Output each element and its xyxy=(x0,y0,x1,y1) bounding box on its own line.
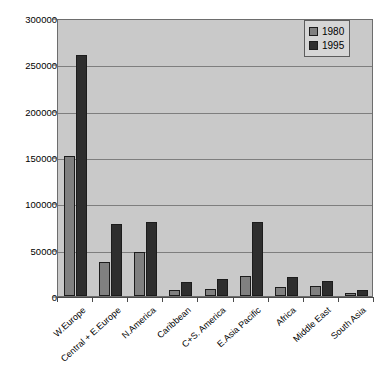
x-axis-category-label: N.America xyxy=(120,305,158,341)
bar xyxy=(205,289,216,296)
x-axis-tick-mark xyxy=(57,297,58,302)
x-axis-line xyxy=(57,297,374,298)
y-axis-tick-label: 150000 xyxy=(5,153,57,164)
legend-label-1995: 1995 xyxy=(322,41,344,51)
x-axis-tick-mark xyxy=(197,297,198,302)
bar xyxy=(275,287,286,296)
bar xyxy=(181,282,192,296)
legend-item-1980: 1980 xyxy=(309,25,344,38)
bar xyxy=(287,277,298,296)
x-axis-tick-mark xyxy=(92,297,93,302)
x-axis-tick-mark xyxy=(162,297,163,302)
bar xyxy=(240,276,251,296)
gridline xyxy=(58,205,372,206)
bar xyxy=(169,290,180,296)
y-axis-tick-label: 250000 xyxy=(5,60,57,71)
legend-swatch-icon-1980 xyxy=(309,27,318,36)
legend-label-1980: 1980 xyxy=(322,27,344,37)
bar xyxy=(146,222,157,296)
plot-area xyxy=(57,19,373,297)
bar xyxy=(252,222,263,296)
bar xyxy=(345,293,356,296)
bar xyxy=(134,252,145,296)
bar-chart: 050000100000150000200000250000300000 W.E… xyxy=(0,0,380,383)
x-axis-tick-mark xyxy=(268,297,269,302)
legend-item-1995: 1995 xyxy=(309,39,344,52)
bar xyxy=(217,279,228,296)
x-axis-tick-mark xyxy=(338,297,339,302)
gridline xyxy=(58,252,372,253)
x-axis-category-label: Africa xyxy=(274,305,298,328)
x-axis-category-label: South Asia xyxy=(329,305,368,341)
x-axis-category-label: Middle East xyxy=(291,305,333,344)
x-axis-tick-mark xyxy=(303,297,304,302)
y-axis-tick-label: 100000 xyxy=(5,199,57,210)
legend-swatch-icon-1995 xyxy=(309,41,318,50)
x-axis-tick-mark xyxy=(373,297,374,302)
y-axis: 050000100000150000200000250000300000 xyxy=(0,0,57,383)
y-axis-tick-label: 50000 xyxy=(5,245,57,256)
x-axis-tick-mark xyxy=(233,297,234,302)
bar xyxy=(322,281,333,296)
bar xyxy=(310,286,321,296)
y-axis-tick-label: 0 xyxy=(5,292,57,303)
gridline xyxy=(58,113,372,114)
bar xyxy=(357,290,368,296)
bar xyxy=(76,55,87,296)
y-axis-tick-label: 300000 xyxy=(5,14,57,25)
gridline xyxy=(58,66,372,67)
chart-legend: 1980 1995 xyxy=(304,20,350,57)
gridline xyxy=(58,159,372,160)
x-axis-category-label: Central + E.Europe xyxy=(59,305,123,364)
bar xyxy=(99,262,110,296)
bar xyxy=(111,224,122,296)
x-axis-tick-mark xyxy=(127,297,128,302)
y-axis-tick-label: 200000 xyxy=(5,106,57,117)
bar xyxy=(64,156,75,296)
